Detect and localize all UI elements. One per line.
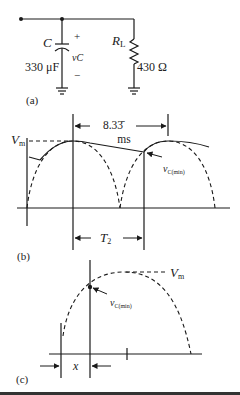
panel-label-c: (c) xyxy=(16,373,29,386)
input-terminal-dot xyxy=(19,17,23,21)
rectifier-filter-diagram: C + vC − 330 μF RL 430 Ω (a) 8.33̄ ms Vm xyxy=(0,0,240,395)
vcmin-label-c: vC(min) xyxy=(110,297,132,310)
capacitor-value: 330 μF xyxy=(25,60,59,74)
half-sine-wave xyxy=(63,272,191,354)
vcmin-point xyxy=(88,285,92,289)
ripple-charge-2 xyxy=(144,141,209,152)
x-label: x xyxy=(72,359,79,373)
vcmin-arrow xyxy=(147,153,162,157)
period-unit: ms xyxy=(117,133,131,145)
waveform-panel-b: 8.33̄ ms Vm vC(min) T2 (b) xyxy=(11,114,230,263)
vm-label-c: Vm xyxy=(170,265,185,281)
capacitor-voltage-label: vC xyxy=(72,52,83,63)
resistor-value: 430 Ω xyxy=(137,60,167,74)
panel-label-a: (a) xyxy=(26,94,39,107)
circuit-panel-a: C + vC − 330 μF RL 430 Ω (a) xyxy=(19,17,167,107)
ripple-decay-start xyxy=(29,157,40,160)
period-value: 8.33̄ xyxy=(103,119,125,131)
capacitor-symbol: C xyxy=(43,35,52,50)
detail-panel-c: vC(min) Vm x (c) xyxy=(16,260,202,386)
plus-sign: + xyxy=(74,30,80,42)
ground-icon xyxy=(56,88,68,94)
vm-label: Vm xyxy=(11,132,26,148)
panel-label-b: (b) xyxy=(17,250,30,263)
vcmin-label-b: vC(min) xyxy=(163,163,185,176)
ripple-charge-1 xyxy=(40,141,73,160)
t2-label: T2 xyxy=(100,230,111,246)
resistor-symbol: RL xyxy=(111,33,125,49)
ground-icon xyxy=(128,88,140,94)
vcmin-arrow-c xyxy=(93,288,107,294)
minus-sign: − xyxy=(74,69,80,81)
capacitor xyxy=(55,19,69,88)
